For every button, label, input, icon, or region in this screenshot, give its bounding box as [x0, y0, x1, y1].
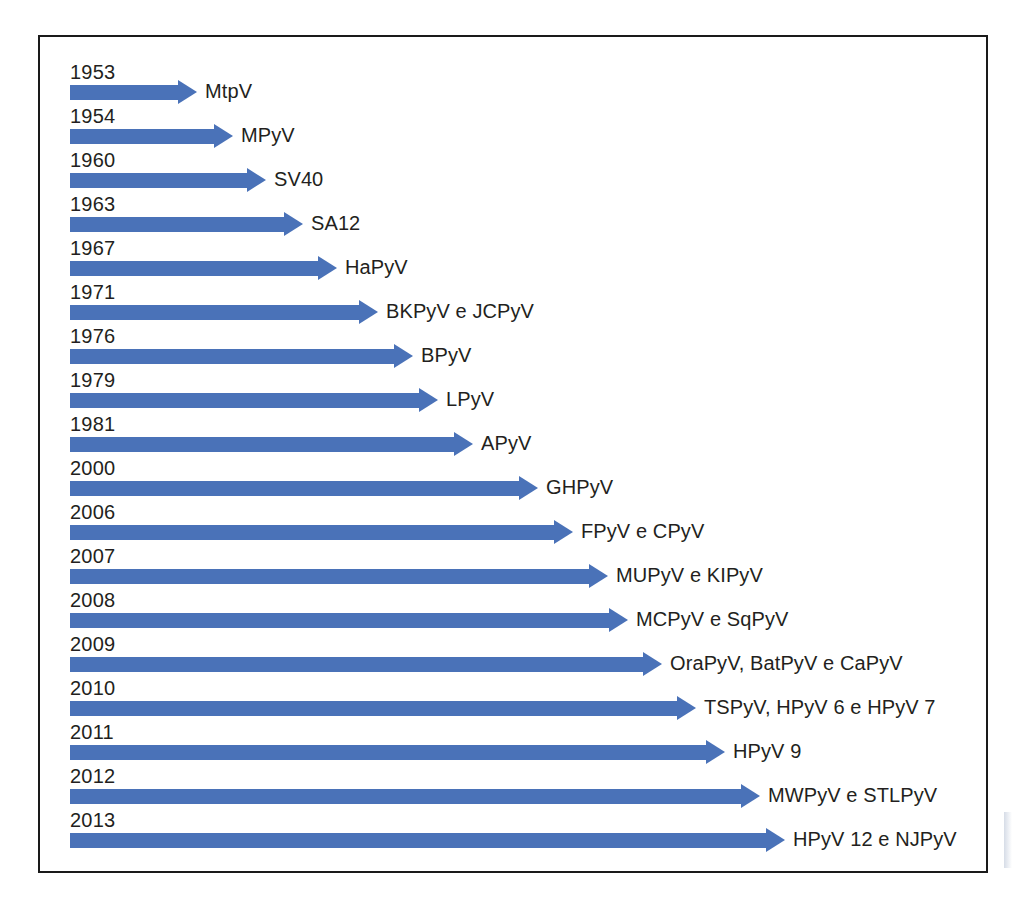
arrow-shaft — [70, 789, 741, 804]
arrow-head-icon — [766, 828, 785, 852]
timeline-row: 1953MtpV — [0, 62, 1014, 106]
arrow-shaft — [70, 833, 766, 848]
timeline-label: MUPyV e KIPyV — [616, 564, 763, 586]
timeline-year: 2009 — [70, 634, 115, 654]
timeline-year: 2006 — [70, 502, 115, 522]
timeline-label: MPyV — [241, 124, 295, 146]
arrow-shaft — [70, 261, 318, 276]
timeline-row: 2009OraPyV, BatPyV e CaPyV — [0, 634, 1014, 678]
arrow-head-icon — [589, 564, 608, 588]
arrow-shaft — [70, 701, 677, 716]
timeline-label: MCPyV e SqPyV — [636, 608, 788, 630]
timeline-arrow — [70, 745, 725, 760]
arrow-shaft — [70, 173, 247, 188]
arrow-head-icon — [419, 388, 438, 412]
timeline-arrow — [70, 305, 378, 320]
timeline-label: BPyV — [421, 344, 471, 366]
timeline-label: HPyV 12 e NJPyV — [793, 828, 957, 850]
timeline-row: 2006FPyV e CPyV — [0, 502, 1014, 546]
timeline-row: 1979LPyV — [0, 370, 1014, 414]
timeline-label: MtpV — [205, 80, 252, 102]
timeline-year: 1976 — [70, 326, 115, 346]
timeline-row: 2012MWPyV e STLPyV — [0, 766, 1014, 810]
timeline-row: 2000GHPyV — [0, 458, 1014, 502]
arrow-shaft — [70, 437, 454, 452]
timeline-arrow — [70, 701, 696, 716]
timeline-row: 2011HPyV 9 — [0, 722, 1014, 766]
arrow-shaft — [70, 613, 609, 628]
timeline-year: 2013 — [70, 810, 115, 830]
timeline-arrow — [70, 261, 337, 276]
timeline-arrow — [70, 437, 473, 452]
timeline-year: 2012 — [70, 766, 115, 786]
arrow-head-icon — [554, 520, 573, 544]
timeline-year: 1979 — [70, 370, 115, 390]
arrow-shaft — [70, 349, 394, 364]
arrow-head-icon — [643, 652, 662, 676]
timeline-figure: 1953MtpV1954MPyV1960SV401963SA121967HaPy… — [0, 0, 1014, 901]
arrow-head-icon — [609, 608, 628, 632]
arrow-shaft — [70, 569, 589, 584]
timeline-arrow — [70, 173, 266, 188]
timeline-row: 1963SA12 — [0, 194, 1014, 238]
timeline-row: 1967HaPyV — [0, 238, 1014, 282]
arrow-shaft — [70, 481, 519, 496]
timeline-row: 1954MPyV — [0, 106, 1014, 150]
timeline-label: SA12 — [311, 212, 360, 234]
timeline-row: 2008MCPyV e SqPyV — [0, 590, 1014, 634]
timeline-row: 1971BKPyV e JCPyV — [0, 282, 1014, 326]
timeline-label: SV40 — [274, 168, 323, 190]
timeline-year: 1963 — [70, 194, 115, 214]
arrow-shaft — [70, 393, 419, 408]
timeline-year: 2000 — [70, 458, 115, 478]
timeline-year: 1971 — [70, 282, 115, 302]
arrow-head-icon — [247, 168, 266, 192]
timeline-label: OraPyV, BatPyV e CaPyV — [670, 652, 903, 674]
timeline-year: 2008 — [70, 590, 115, 610]
timeline-row: 1960SV40 — [0, 150, 1014, 194]
arrow-head-icon — [318, 256, 337, 280]
timeline-label: HPyV 9 — [733, 740, 801, 762]
timeline-year: 1953 — [70, 62, 115, 82]
arrow-head-icon — [706, 740, 725, 764]
timeline-rows: 1953MtpV1954MPyV1960SV401963SA121967HaPy… — [0, 0, 1014, 901]
timeline-label: HaPyV — [345, 256, 408, 278]
timeline-label: MWPyV e STLPyV — [768, 784, 937, 806]
timeline-arrow — [70, 789, 760, 804]
timeline-arrow — [70, 129, 233, 144]
arrow-shaft — [70, 657, 643, 672]
timeline-arrow — [70, 657, 662, 672]
arrow-shaft — [70, 525, 554, 540]
timeline-arrow — [70, 393, 438, 408]
timeline-year: 1954 — [70, 106, 115, 126]
arrow-shaft — [70, 745, 706, 760]
timeline-year: 2007 — [70, 546, 115, 566]
timeline-arrow — [70, 569, 608, 584]
timeline-year: 1960 — [70, 150, 115, 170]
timeline-arrow — [70, 833, 785, 848]
arrow-head-icon — [359, 300, 378, 324]
arrow-head-icon — [178, 80, 197, 104]
timeline-row: 2010TSPyV, HPyV 6 e HPyV 7 — [0, 678, 1014, 722]
timeline-label: APyV — [481, 432, 531, 454]
timeline-arrow — [70, 525, 573, 540]
timeline-year: 2011 — [70, 722, 114, 742]
arrow-shaft — [70, 85, 178, 100]
arrow-shaft — [70, 129, 214, 144]
timeline-row: 2013HPyV 12 e NJPyV — [0, 810, 1014, 854]
timeline-arrow — [70, 349, 413, 364]
arrow-head-icon — [454, 432, 473, 456]
arrow-shaft — [70, 217, 284, 232]
timeline-year: 1967 — [70, 238, 115, 258]
arrow-head-icon — [394, 344, 413, 368]
arrow-head-icon — [741, 784, 760, 808]
timeline-arrow — [70, 85, 197, 100]
timeline-year: 2010 — [70, 678, 115, 698]
arrow-head-icon — [214, 124, 233, 148]
timeline-row: 1976BPyV — [0, 326, 1014, 370]
timeline-year: 1981 — [70, 414, 115, 434]
timeline-label: TSPyV, HPyV 6 e HPyV 7 — [704, 696, 936, 718]
timeline-label: BKPyV e JCPyV — [386, 300, 534, 322]
timeline-label: FPyV e CPyV — [581, 520, 704, 542]
arrow-head-icon — [677, 696, 696, 720]
